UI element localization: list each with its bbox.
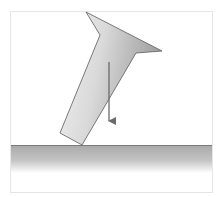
floor: [11, 145, 212, 173]
floor-shading: [11, 145, 212, 173]
diagram-canvas: [0, 0, 223, 197]
diagram-svg: [0, 0, 223, 197]
